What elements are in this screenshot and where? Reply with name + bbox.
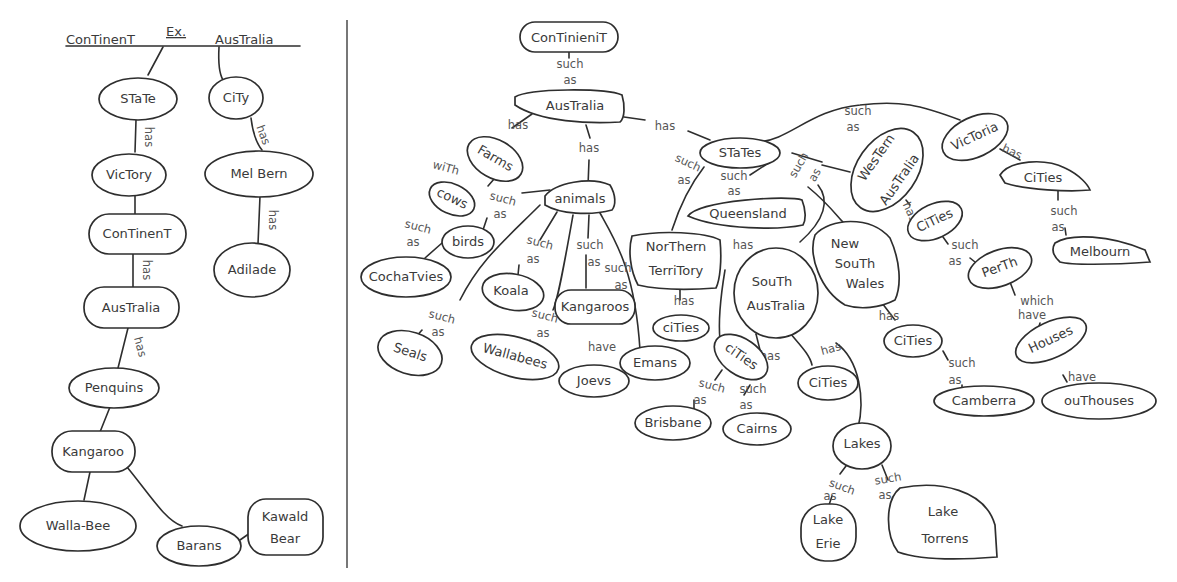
svg-text:ConTinieniT: ConTinieniT — [531, 30, 607, 45]
connector-australia-penquins — [118, 328, 128, 368]
node-kangaroos: Kangaroos — [555, 290, 635, 324]
connector — [586, 125, 590, 138]
node-states: STaTes — [700, 138, 780, 168]
svg-text:Melbourn: Melbourn — [1070, 244, 1131, 259]
link-label-as: as — [878, 488, 891, 502]
svg-text:Walla-Bee: Walla-Bee — [46, 518, 110, 533]
svg-text:ConTinenT: ConTinenT — [103, 226, 172, 241]
node-continent: ConTinieniT — [520, 22, 618, 52]
node-nt-cities: ciTies — [653, 315, 709, 341]
connector — [624, 117, 645, 120]
link-label-as: as — [677, 173, 690, 187]
connector-kangaroo-barans — [127, 467, 182, 526]
connector — [1063, 375, 1067, 382]
link-label-such: such — [557, 57, 584, 71]
header-example-marker: Ex. — [166, 24, 186, 39]
node-adilade: Adilade — [214, 243, 290, 297]
node-barans: Barans — [157, 526, 241, 566]
link-label-such: such — [1051, 204, 1078, 218]
link-label-has: has — [733, 238, 753, 252]
node-northern-territory: NorThern TerriTory — [630, 233, 721, 290]
svg-text:Kangaroos: Kangaroos — [561, 299, 630, 314]
connector-header-city — [219, 47, 223, 80]
link-label-as: as — [1051, 220, 1064, 234]
node-city: CiTy — [209, 77, 263, 119]
link-label-as: as — [536, 326, 549, 340]
svg-text:Emans: Emans — [633, 355, 677, 370]
svg-text:animals: animals — [555, 191, 606, 206]
node-cairns: Cairns — [723, 413, 791, 445]
node-lakes: Lakes — [833, 423, 891, 469]
connector — [790, 333, 812, 365]
svg-text:STaTe: STaTe — [120, 91, 156, 106]
node-kangaroo: Kangaroo — [52, 431, 135, 472]
node-brisbane: Brisbane — [635, 406, 711, 440]
svg-text:NorThern: NorThern — [646, 239, 707, 254]
link-label-has: has — [674, 294, 694, 308]
connector — [719, 270, 725, 340]
svg-text:CochaTvies: CochaTvies — [369, 269, 444, 284]
header-continent-label: ConTinenT — [66, 32, 135, 47]
node-sa-cities: CiTies — [798, 366, 858, 400]
node-south-australia: SouTh AusTralia — [734, 248, 818, 338]
node-outhouses: ouThouses — [1042, 383, 1156, 419]
svg-text:ciTies: ciTies — [663, 320, 700, 335]
link-label-as: as — [493, 207, 506, 221]
concept-map-canvas: ConTinenT Ex. AusTralia has has has has … — [0, 0, 1177, 582]
link-label-as: as — [727, 184, 740, 198]
node-animals: animals — [545, 181, 615, 213]
link-label-has: has — [140, 260, 154, 280]
svg-text:VicTory: VicTory — [106, 167, 152, 182]
link-label-has: has — [142, 127, 156, 147]
svg-text:Torrens: Torrens — [921, 531, 969, 546]
link-label-such: such — [949, 356, 976, 370]
left-panel-example-map: ConTinenT Ex. AusTralia has has has has … — [20, 24, 323, 566]
svg-text:Erie: Erie — [815, 536, 840, 551]
svg-text:ouThouses: ouThouses — [1064, 393, 1134, 408]
node-lake-torrens: Lake Torrens — [888, 485, 997, 558]
svg-text:CiTies: CiTies — [894, 333, 933, 348]
link-label-such: such — [740, 382, 767, 396]
node-penquins: Penquins — [69, 368, 159, 408]
node-birds: birds — [442, 226, 494, 258]
svg-text:Cairns: Cairns — [737, 421, 778, 436]
connector-penquins-kangaroo — [100, 407, 110, 432]
connector — [808, 187, 843, 222]
connector — [943, 237, 948, 244]
svg-text:AusTralia: AusTralia — [102, 300, 160, 315]
svg-text:CiTy: CiTy — [223, 90, 250, 105]
node-victory: VicTory — [92, 154, 166, 196]
link-label-has: has — [253, 123, 273, 147]
node-lake-erie: Lake Erie — [801, 504, 856, 561]
node-queensland: Queensland — [688, 198, 805, 228]
svg-text:Brisbane: Brisbane — [644, 415, 701, 430]
connector-kangaroo-wallabee — [84, 472, 90, 500]
link-label-has: has — [508, 118, 528, 132]
svg-text:New: New — [831, 236, 860, 251]
link-label-as: as — [563, 73, 576, 87]
connector-melbern-adilade — [258, 196, 260, 244]
node-mel-bern: Mel Bern — [205, 151, 313, 197]
link-label-such: such — [673, 151, 703, 175]
node-kawald-bear: Kawald Bear — [248, 499, 323, 555]
link-label-as: as — [526, 252, 539, 266]
svg-text:Bear: Bear — [270, 531, 301, 546]
svg-text:SouTh: SouTh — [835, 256, 876, 271]
link-label-have: have — [1068, 370, 1096, 384]
link-label-has: has — [266, 210, 280, 230]
svg-text:Kangaroo: Kangaroo — [62, 444, 124, 459]
svg-text:Lake: Lake — [928, 504, 958, 519]
svg-text:AusTralia: AusTralia — [546, 98, 604, 113]
node-farms: Farms — [460, 128, 531, 191]
connector — [483, 218, 487, 230]
svg-text:Adilade: Adilade — [228, 262, 276, 277]
link-label-has: has — [879, 309, 899, 323]
link-label-has: has — [131, 335, 150, 358]
connector — [688, 131, 710, 140]
link-label-as: as — [948, 254, 961, 268]
svg-text:Camberra: Camberra — [952, 393, 1016, 408]
link-label-have: have — [1018, 308, 1046, 322]
link-label-as: as — [823, 489, 836, 503]
svg-text:Lakes: Lakes — [843, 436, 880, 451]
connector — [518, 265, 519, 275]
